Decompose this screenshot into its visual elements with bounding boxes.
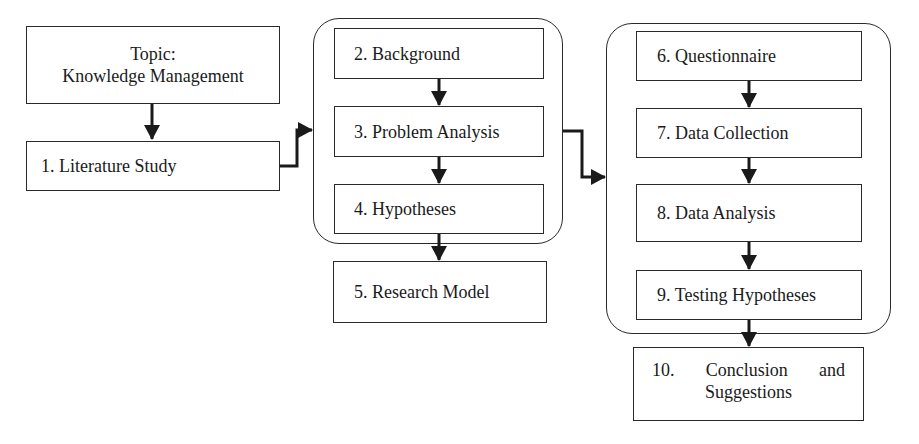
step-10-conclusion-and-suggestions: 10. Conclusion and Suggestions (633, 347, 864, 421)
research-flowchart: Topic: Knowledge Management 1. Literatur… (0, 0, 919, 444)
step-2-background: 2. Background (334, 28, 544, 79)
step-label: 5. Research Model (354, 281, 489, 303)
step-label: 1. Literature Study (41, 155, 176, 177)
step-8-data-analysis: 8. Data Analysis (636, 184, 862, 242)
step-9-testing-hypotheses: 9. Testing Hypotheses (636, 270, 862, 320)
step-label: 2. Background (354, 43, 460, 65)
topic-name: Knowledge Management (62, 65, 243, 87)
step-5-research-model: 5. Research Model (333, 261, 547, 323)
arrow-step1-to-group-a (280, 130, 312, 166)
step-label: 9. Testing Hypotheses (657, 284, 816, 306)
step-1-literature-study: 1. Literature Study (26, 141, 280, 191)
step-7-data-collection: 7. Data Collection (636, 108, 862, 158)
topic-box: Topic: Knowledge Management (26, 26, 280, 104)
step-label: 7. Data Collection (657, 122, 788, 144)
step-label: 3. Problem Analysis (354, 121, 500, 143)
step-10-number: 10. (652, 359, 675, 381)
step-10-line-1: 10. Conclusion and (652, 359, 845, 381)
step-10-word-conclusion: Conclusion (706, 359, 788, 381)
step-label: 6. Questionnaire (657, 45, 776, 67)
step-10-line-2: Suggestions (652, 381, 845, 403)
step-4-hypotheses: 4. Hypotheses (334, 184, 544, 234)
step-label: 8. Data Analysis (657, 202, 776, 224)
step-10-word-and: and (819, 359, 845, 381)
step-3-problem-analysis: 3. Problem Analysis (334, 106, 544, 157)
step-6-questionnaire: 6. Questionnaire (636, 31, 862, 81)
step-label: 4. Hypotheses (354, 198, 456, 220)
topic-label: Topic: (130, 43, 176, 65)
arrow-group-a-to-group-b (563, 131, 605, 177)
